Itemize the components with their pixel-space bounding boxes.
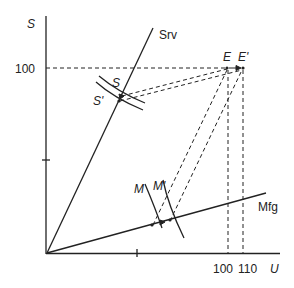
x-tick-label-110: 110	[238, 263, 257, 275]
arrowhead-icon	[236, 66, 241, 71]
point-m-label: M	[134, 183, 144, 195]
mfg-label: Mfg	[258, 201, 278, 213]
point-m	[150, 223, 153, 226]
m-prime-to-e-prime-dash	[170, 70, 242, 221]
point-s-prime-label: S'	[93, 95, 103, 107]
point-s	[120, 94, 123, 97]
s-to-e-dash	[122, 69, 227, 96]
x-tick-label-100: 100	[213, 263, 233, 275]
m-to-e-dash	[153, 70, 227, 225]
point-s-label: S	[112, 77, 120, 89]
point-e	[225, 66, 228, 69]
mfg-ray	[47, 193, 266, 253]
point-e-prime-label: E'	[238, 51, 248, 63]
y-axis-label: S	[27, 18, 35, 30]
y-tick-label-100: 100	[15, 63, 35, 75]
x-axis-label: U	[270, 263, 279, 275]
point-m-prime-label: M'	[153, 180, 165, 192]
point-s-prime	[117, 99, 120, 102]
srv-ray	[47, 28, 153, 253]
s-prime-to-e-prime-dash	[120, 70, 242, 101]
srv-label: Srv	[159, 29, 177, 41]
diagram-canvas	[0, 0, 294, 288]
point-e-prime	[241, 66, 244, 69]
point-m-prime	[168, 218, 171, 221]
m-prime-curve	[163, 180, 184, 238]
point-e-label: E	[223, 51, 231, 63]
